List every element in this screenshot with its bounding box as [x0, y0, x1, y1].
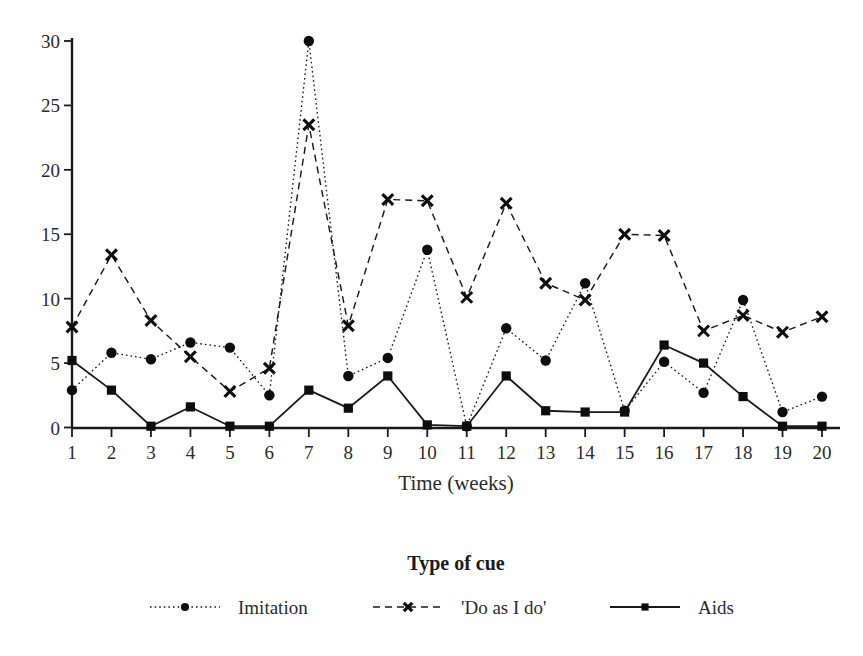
data-point-square-marker	[67, 356, 76, 365]
y-tick-label: 30	[41, 31, 60, 52]
legend-entry-2[interactable]: 'Do as I do'	[373, 597, 546, 618]
series-markers	[67, 340, 826, 430]
data-point-circle-marker	[580, 278, 590, 288]
data-point-square-marker	[502, 371, 511, 380]
legend-entry-3[interactable]: Aids	[610, 597, 734, 618]
data-point-circle-marker	[106, 348, 116, 358]
legend-label: 'Do as I do'	[461, 597, 546, 618]
x-tick-label: 4	[186, 442, 196, 463]
x-tick-label: 8	[344, 442, 354, 463]
data-point-square-marker	[462, 422, 471, 431]
data-point-square-marker	[620, 407, 629, 416]
data-series-layer	[67, 36, 828, 432]
y-tick-label: 0	[51, 418, 61, 439]
data-point-x-marker	[224, 386, 235, 397]
data-point-square-marker	[778, 422, 787, 431]
x-axis-title: Time (weeks)	[398, 471, 513, 495]
data-point-x-marker	[146, 315, 157, 326]
data-point-x-marker	[461, 292, 472, 303]
data-point-circle-marker	[698, 388, 708, 398]
data-point-circle-marker	[817, 391, 827, 401]
data-point-x-marker	[580, 295, 591, 306]
data-point-x-marker	[540, 278, 551, 289]
data-point-square-marker	[738, 392, 747, 401]
legend: Imitation'Do as I do'Aids	[150, 597, 734, 618]
data-point-square-marker	[383, 371, 392, 380]
x-tick-label: 13	[536, 442, 555, 463]
x-tick-label: 14	[576, 442, 596, 463]
data-point-square-marker	[225, 422, 234, 431]
data-point-circle-marker	[422, 245, 432, 255]
data-point-x-marker	[817, 311, 828, 322]
x-tick-label: 20	[813, 442, 832, 463]
data-point-x-marker	[185, 351, 196, 362]
data-point-square-marker	[423, 420, 432, 429]
x-tick-label: 3	[146, 442, 156, 463]
x-tick-label: 2	[107, 442, 117, 463]
data-point-circle-marker	[777, 407, 787, 417]
data-point-square-marker	[581, 407, 590, 416]
data-point-x-marker	[738, 310, 749, 321]
data-point-circle-marker	[264, 390, 274, 400]
x-tick-label: 18	[734, 442, 753, 463]
data-point-square-marker	[344, 404, 353, 413]
data-point-square-marker	[107, 386, 116, 395]
x-tick-label: 10	[418, 442, 437, 463]
data-point-circle-marker	[738, 295, 748, 305]
data-point-circle-marker	[225, 342, 235, 352]
y-tick-label: 25	[41, 95, 60, 116]
data-point-square-marker	[541, 406, 550, 415]
data-point-square-marker	[641, 603, 648, 610]
y-tick-label: 10	[41, 289, 60, 310]
x-tick-label: 1	[67, 442, 77, 463]
data-point-circle-marker	[67, 385, 77, 395]
x-tick-label: 7	[304, 442, 314, 463]
y-tick-label: 15	[41, 224, 60, 245]
x-tick-label: 19	[773, 442, 792, 463]
data-point-square-marker	[304, 386, 313, 395]
data-point-circle-marker	[146, 354, 156, 364]
y-tick-label: 20	[41, 160, 60, 181]
data-point-square-marker	[265, 422, 274, 431]
data-point-x-marker	[698, 325, 709, 336]
series-markers	[67, 119, 828, 396]
x-axis-tick-marks	[72, 428, 822, 437]
x-tick-label: 17	[694, 442, 713, 463]
data-point-circle-marker	[304, 36, 314, 46]
data-point-x-marker	[501, 198, 512, 209]
x-tick-label: 11	[458, 442, 476, 463]
x-tick-label: 5	[225, 442, 235, 463]
data-point-circle-marker	[540, 355, 550, 365]
data-point-square-marker	[699, 358, 708, 367]
series-3	[67, 340, 826, 430]
x-tick-label: 15	[615, 442, 634, 463]
data-point-circle-marker	[181, 603, 189, 611]
line-chart-canvas: 051015202530 123456789101112131415161718…	[0, 0, 863, 656]
x-tick-label: 6	[265, 442, 275, 463]
series-line	[72, 125, 822, 392]
data-point-square-marker	[660, 340, 669, 349]
series-2	[67, 119, 828, 396]
chart-figure: 051015202530 123456789101112131415161718…	[0, 0, 863, 656]
data-point-x-marker	[382, 194, 393, 205]
legend-entry-1[interactable]: Imitation	[150, 597, 308, 618]
data-point-circle-marker	[383, 353, 393, 363]
data-point-x-marker	[106, 249, 117, 260]
data-point-x-marker	[777, 327, 788, 338]
legend-label: Imitation	[238, 597, 308, 618]
data-point-circle-marker	[343, 371, 353, 381]
data-point-x-marker	[619, 229, 630, 240]
x-tick-label: 9	[383, 442, 393, 463]
y-axis-tick-labels: 051015202530	[41, 31, 60, 439]
data-point-square-marker	[817, 422, 826, 431]
data-point-circle-marker	[185, 337, 195, 347]
data-point-circle-marker	[659, 357, 669, 367]
x-axis-tick-labels: 1234567891011121314151617181920	[67, 442, 831, 463]
x-tick-label: 16	[655, 442, 674, 463]
x-tick-label: 12	[497, 442, 516, 463]
legend-title: Type of cue	[407, 552, 505, 575]
data-point-square-marker	[186, 402, 195, 411]
y-tick-label: 5	[51, 353, 61, 374]
series-line	[72, 345, 822, 426]
data-point-square-marker	[146, 422, 155, 431]
